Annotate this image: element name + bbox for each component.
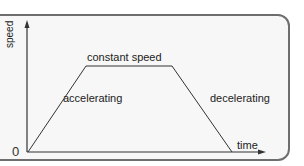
constant-speed-label: constant speed xyxy=(87,52,162,63)
y-axis-arrow-icon xyxy=(25,20,30,28)
x-axis-label: time xyxy=(237,140,258,151)
speed-time-graph xyxy=(0,0,304,166)
accelerating-label: accelerating xyxy=(63,93,122,104)
decelerating-label: decelerating xyxy=(210,93,270,104)
origin-label: 0 xyxy=(12,145,19,158)
speed-curve xyxy=(28,66,232,152)
y-axis-label: speed xyxy=(5,21,15,48)
x-axis-arrow-icon xyxy=(258,150,266,155)
